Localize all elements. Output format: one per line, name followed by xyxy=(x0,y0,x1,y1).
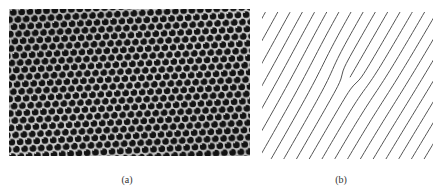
lattice-line xyxy=(262,10,422,160)
dislocation-lines xyxy=(262,10,434,160)
lattice-line xyxy=(262,10,385,160)
lattice-line xyxy=(262,10,366,160)
lattice-photograph xyxy=(9,9,250,156)
lattice-line xyxy=(310,10,434,160)
hexagonal-lattice-image xyxy=(9,9,250,156)
lattice-line xyxy=(262,10,412,160)
lattice-line xyxy=(263,10,434,160)
lattice-line xyxy=(300,10,434,160)
lattice-line xyxy=(357,10,434,160)
panel-a-caption: (a) xyxy=(107,174,147,185)
dislocation-line-diagram xyxy=(262,10,434,160)
panel-b-caption: (b) xyxy=(321,174,361,185)
lattice-line xyxy=(319,10,434,160)
